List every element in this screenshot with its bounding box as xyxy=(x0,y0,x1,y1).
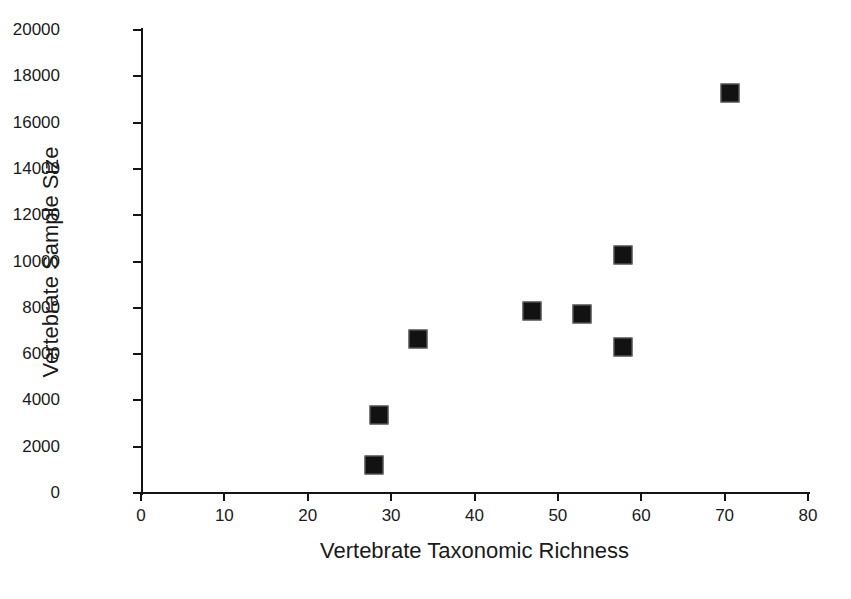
data-point xyxy=(573,305,592,324)
plot-area xyxy=(141,30,808,493)
x-axis-tick xyxy=(223,492,225,501)
y-axis-tick xyxy=(133,75,141,77)
x-axis-tick-label: 10 xyxy=(194,507,254,525)
data-point xyxy=(369,405,388,424)
y-axis-tick xyxy=(133,122,141,124)
y-axis-title: Vertebrate Sample Size xyxy=(34,31,68,494)
x-axis-tick xyxy=(390,492,392,501)
y-axis-tick xyxy=(133,29,141,31)
x-axis-tick-label: 0 xyxy=(111,507,171,525)
y-axis-tick xyxy=(133,261,141,263)
x-axis-tick xyxy=(807,492,809,501)
x-axis-tick xyxy=(474,492,476,501)
x-axis-tick xyxy=(640,492,642,501)
x-axis-tick xyxy=(140,492,142,501)
y-axis-tick xyxy=(133,168,141,170)
data-point xyxy=(721,83,740,102)
data-point xyxy=(613,246,632,265)
x-axis-tick xyxy=(724,492,726,501)
y-axis-tick xyxy=(133,446,141,448)
x-axis-tick xyxy=(557,492,559,501)
y-axis-tick xyxy=(133,214,141,216)
y-axis-tick xyxy=(133,399,141,401)
x-axis-tick-label: 30 xyxy=(361,507,421,525)
x-axis-tick-label: 40 xyxy=(445,507,505,525)
data-point xyxy=(613,337,632,356)
x-axis-tick-label: 80 xyxy=(778,507,838,525)
scatter-plot-figure: 0200040006000800010000120001400016000180… xyxy=(0,0,851,599)
y-axis-tick xyxy=(133,307,141,309)
x-axis-title: Vertebrate Taxonomic Richness xyxy=(141,538,808,564)
x-axis-tick-label: 70 xyxy=(695,507,755,525)
data-point xyxy=(364,455,383,474)
data-point xyxy=(408,330,427,349)
x-axis-tick-label: 20 xyxy=(278,507,338,525)
x-axis-tick xyxy=(307,492,309,501)
x-axis-tick-label: 60 xyxy=(611,507,671,525)
y-axis-tick xyxy=(133,353,141,355)
x-axis-tick-label: 50 xyxy=(528,507,588,525)
data-point xyxy=(523,302,542,321)
